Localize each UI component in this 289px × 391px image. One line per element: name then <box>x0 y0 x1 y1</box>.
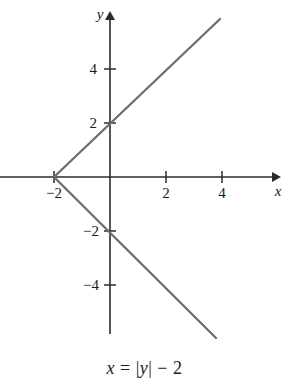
coordinate-plane-svg: −2 2 4 4 2 −2 −4 y x <box>0 0 289 391</box>
graph-branch-lower <box>54 177 216 338</box>
equation-constant: 2 <box>173 358 183 378</box>
x-tick-label-4: 4 <box>218 185 226 201</box>
equation-lhs-variable: x <box>106 358 115 378</box>
equation-caption: x = |y| − 2 <box>0 358 289 379</box>
x-tick-label-neg2: −2 <box>46 185 62 201</box>
x-axis-arrowhead-icon <box>272 172 281 182</box>
equation-equals: = <box>120 358 131 378</box>
y-axis-arrowhead-icon <box>105 11 115 20</box>
equation-minus: − <box>157 358 168 378</box>
equation-abs-variable: y <box>140 358 149 378</box>
y-axis-label: y <box>95 6 104 22</box>
y-tick-label-2: 2 <box>90 115 98 131</box>
x-axis-label: x <box>274 183 282 199</box>
graph-branch-upper <box>54 19 220 177</box>
x-tick-label-2: 2 <box>162 185 170 201</box>
y-tick-label-neg4: −4 <box>83 277 99 293</box>
y-tick-label-4: 4 <box>90 61 98 77</box>
graph-figure: −2 2 4 4 2 −2 −4 y x x = |y| − 2 <box>0 0 289 391</box>
y-tick-label-neg2: −2 <box>83 223 99 239</box>
